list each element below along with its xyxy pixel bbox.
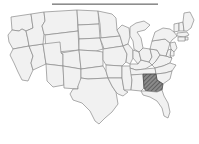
state-mo[interactable] bbox=[103, 46, 127, 66]
state-me[interactable] bbox=[183, 12, 194, 31]
state-mt[interactable] bbox=[42, 10, 78, 35]
horizontal-rule bbox=[52, 3, 158, 5]
us-map-svg[interactable] bbox=[0, 8, 199, 144]
state-ma[interactable] bbox=[177, 32, 189, 37]
state-wa[interactable] bbox=[11, 14, 33, 31]
state-mi[interactable] bbox=[130, 21, 150, 52]
state-ca[interactable] bbox=[10, 46, 33, 81]
state-az[interactable] bbox=[46, 64, 64, 87]
state-ri[interactable] bbox=[185, 37, 188, 40]
state-or[interactable] bbox=[8, 29, 29, 49]
state-ar[interactable] bbox=[106, 65, 122, 78]
state-ct[interactable] bbox=[178, 37, 185, 41]
states-layer[interactable] bbox=[8, 10, 194, 124]
state-mn[interactable] bbox=[98, 11, 120, 38]
state-nd[interactable] bbox=[77, 10, 99, 25]
us-states-map[interactable] bbox=[0, 8, 199, 144]
state-ne[interactable] bbox=[79, 38, 103, 51]
state-sd[interactable] bbox=[78, 24, 100, 39]
map-page bbox=[0, 0, 199, 144]
state-fl[interactable] bbox=[141, 90, 170, 118]
state-ut[interactable] bbox=[43, 42, 63, 66]
state-vt[interactable] bbox=[174, 23, 179, 32]
state-al[interactable] bbox=[131, 74, 144, 91]
